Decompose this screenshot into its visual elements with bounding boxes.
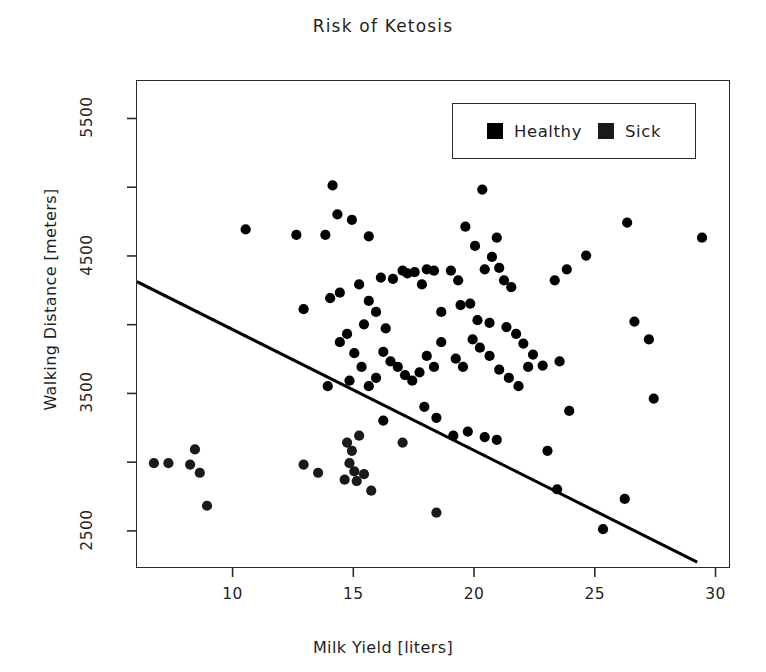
chart-title: Risk of Ketosis: [0, 16, 766, 36]
legend-swatch-sick: [598, 123, 614, 139]
legend-item-healthy[interactable]: Healthy: [487, 122, 582, 141]
chart-canvas: Risk of Ketosis Walking Distance [meters…: [0, 0, 766, 672]
x-tick-label: 20: [444, 585, 504, 603]
y-tick-label: 3500: [78, 362, 96, 422]
y-tick-label: 5500: [78, 87, 96, 147]
x-tick-label: 30: [686, 585, 746, 603]
x-axis-title: Milk Yield [liters]: [0, 638, 766, 657]
legend-label-sick: Sick: [625, 122, 661, 141]
y-tick-label: 2500: [78, 500, 96, 560]
y-tick-label: 4500: [78, 225, 96, 285]
legend-item-sick[interactable]: Sick: [598, 122, 661, 141]
legend-label-healthy: Healthy: [514, 122, 582, 141]
legend: Healthy Sick: [452, 103, 696, 159]
x-tick-label: 25: [565, 585, 625, 603]
x-tick-label: 10: [203, 585, 263, 603]
y-axis-title: Walking Distance [meters]: [41, 150, 60, 450]
legend-swatch-healthy: [487, 123, 503, 139]
x-tick-label: 15: [323, 585, 383, 603]
